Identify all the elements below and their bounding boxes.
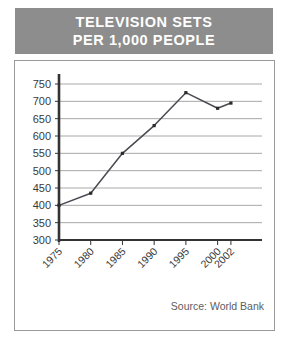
- y-axis-tick-label: 700: [33, 95, 51, 107]
- y-axis-tick-label: 350: [33, 217, 51, 229]
- chart-title-banner: TELEVISION SETS PER 1,000 PEOPLE: [15, 8, 273, 54]
- x-axis-tick-label: 1975: [39, 245, 64, 270]
- y-axis-ticklabels-group: 300350400450500550600650700750: [33, 78, 51, 246]
- data-point-marker: [229, 101, 232, 104]
- x-axis-tick-label: 1990: [135, 245, 160, 270]
- y-axis-tick-label: 300: [33, 234, 51, 246]
- x-axis-ticklabels-group: 1975198019851990199520002002: [39, 245, 236, 270]
- chart-plot-area: 300350400450500550600650700750 197519801…: [14, 60, 275, 331]
- y-axis-group: [55, 74, 59, 242]
- gridlines-group: [59, 84, 262, 240]
- data-point-marker: [89, 192, 92, 195]
- line-chart-svg: 300350400450500550600650700750 197519801…: [14, 60, 275, 331]
- y-axis-tick-label: 400: [33, 199, 51, 211]
- x-axis-group: [58, 240, 262, 245]
- y-axis-tick-label: 650: [33, 113, 51, 125]
- x-axis-tick-label: 1995: [166, 245, 191, 270]
- data-point-marker: [184, 91, 187, 94]
- chart-figure: TELEVISION SETS PER 1,000 PEOPLE 3003504…: [0, 0, 288, 342]
- y-axis-tick-label: 450: [33, 182, 51, 194]
- x-axis-tick-label: 1985: [103, 245, 128, 270]
- data-point-marker: [121, 152, 124, 155]
- data-markers-group: [57, 91, 232, 207]
- chart-title-line-2: PER 1,000 PEOPLE: [73, 31, 216, 49]
- y-axis-tick-label: 600: [33, 130, 51, 142]
- chart-title-line-1: TELEVISION SETS: [75, 13, 212, 31]
- y-axis-tick-label: 750: [33, 78, 51, 90]
- data-point-marker: [216, 107, 219, 110]
- y-axis-tick-label: 500: [33, 165, 51, 177]
- data-point-marker: [57, 204, 60, 207]
- data-point-marker: [153, 124, 156, 127]
- x-axis-tick-label: 1980: [71, 245, 96, 270]
- source-note: Source: World Bank: [0, 300, 264, 312]
- y-axis-tick-label: 550: [33, 147, 51, 159]
